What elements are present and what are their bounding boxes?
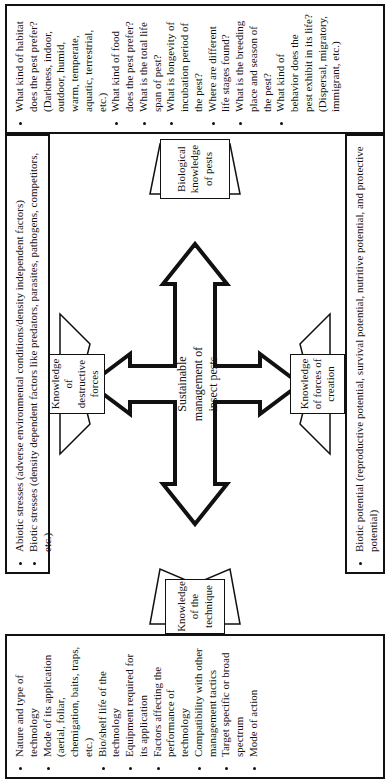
list-item: Bio/shelf life of the technology (96, 644, 124, 757)
list-item: Biotic stresses (density dependent facto… (27, 144, 55, 552)
list-item: What kind of food does the pest prefer? (109, 14, 137, 112)
technique-box: Nature and type of technology Mode of it… (5, 634, 385, 779)
list-item: Abiotic stresses (adverse environmental … (13, 144, 27, 552)
node-biological-knowledge: Biological knowledge of pests (160, 139, 230, 199)
list-item: What is the total life span of pest? (137, 14, 165, 112)
diagram-canvas: Sustainable management of insect pests B… (0, 0, 391, 784)
list-item: Equipment required for its application (123, 644, 151, 757)
list-item: Compatibility with other management tact… (192, 644, 220, 757)
list-item: Biotic potential (reproductive potential… (353, 144, 381, 552)
list-item: Target specific or broad spectrum (219, 644, 247, 757)
list-item: Nature and type of technology (13, 644, 41, 757)
node-knowledge-technique: Knowledge of the technique (165, 579, 225, 634)
destructive-forces-box: Abiotic stresses (adverse environmental … (5, 134, 50, 574)
center-label: Sustainable management of insect pests (175, 334, 222, 434)
list-item: What kind of habitat does the pest prefe… (13, 14, 109, 112)
biology-questions-box: What kind of habitat does the pest prefe… (5, 4, 385, 134)
list-item: What is longevity of incubation period o… (164, 14, 205, 112)
list-item: Where are different life stages found? (206, 14, 234, 112)
creation-forces-box: Biotic potential (reproductive potential… (345, 134, 385, 574)
list-item: Factors affecting the performance of tec… (151, 644, 192, 757)
node-forces-of-creation: Knowledge of forces of creation (290, 354, 345, 414)
list-item: What is the breeding place and season of… (233, 14, 274, 112)
list-item: What kind of behavior does the pest exhi… (274, 14, 343, 112)
list-item: Mode of its application (aerial, foliar,… (41, 644, 96, 757)
list-item: Mode of action (247, 644, 261, 757)
